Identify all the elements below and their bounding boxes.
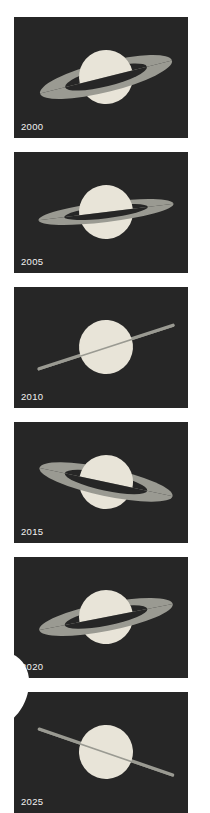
- saturn-graphic-2015: [14, 422, 188, 543]
- saturn-graphic-2010: [14, 287, 188, 408]
- year-label-2020: 2020: [21, 662, 43, 672]
- year-label-2000: 2000: [21, 122, 43, 132]
- saturn-system-2025: [29, 703, 183, 801]
- saturn-panel-2020: 2020: [14, 557, 188, 678]
- saturn-panel-2005: 2005: [14, 152, 188, 273]
- saturn-system-2000: [33, 34, 178, 119]
- saturn-graphic-2005: [14, 152, 188, 273]
- saturn-system-2005: [35, 177, 177, 247]
- saturn-panel-2015: 2015: [14, 422, 188, 543]
- saturn-system-2010: [29, 299, 183, 395]
- year-label-2015: 2015: [21, 527, 43, 537]
- saturn-graphic-2000: [14, 17, 188, 138]
- saturn-system-2015: [34, 441, 178, 522]
- year-label-2010: 2010: [21, 392, 43, 402]
- saturn-graphic-2025: [14, 692, 188, 813]
- saturn-panel-2010: 2010: [14, 287, 188, 408]
- saturn-graphic-2020: [14, 557, 188, 678]
- year-label-2005: 2005: [21, 257, 43, 267]
- saturn-panel-2025: 2025: [14, 692, 188, 813]
- saturn-system-2020: [34, 578, 178, 657]
- saturn-panel-2000: 2000: [14, 17, 188, 138]
- year-label-2025: 2025: [21, 797, 43, 807]
